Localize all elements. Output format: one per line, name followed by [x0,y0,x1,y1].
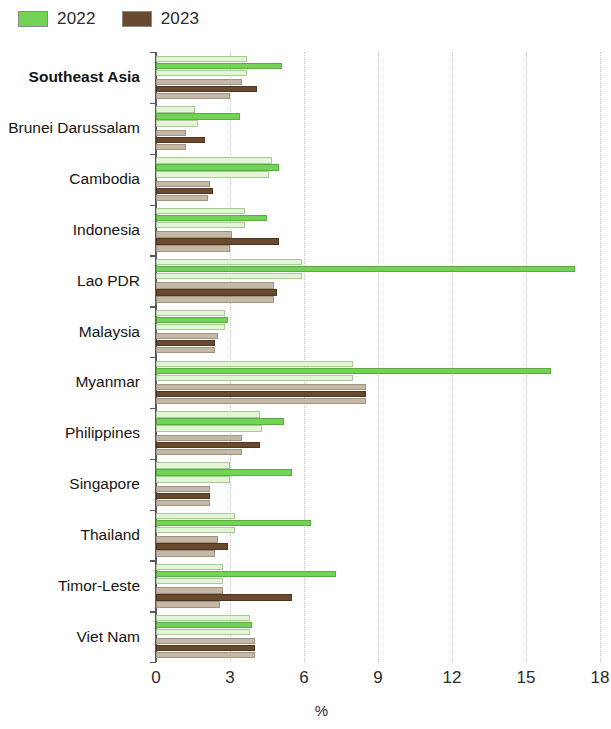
x-tick-label-3: 3 [225,668,234,688]
bar-2022-lower [156,171,269,177]
bar-2022-main [156,113,240,119]
bar-2022-main [156,317,228,323]
bar-group [156,459,600,510]
bar-2022-main [156,215,267,221]
bar-2022-lower [156,425,262,431]
bar-group [156,611,600,662]
bar-2023-main [156,493,210,499]
bar-2023-lower [156,347,215,353]
bar-2023-lower [156,398,366,404]
bar-2022-lower [156,120,198,126]
x-tick-label-15: 15 [517,668,536,688]
bar-2023-upper [156,181,210,187]
bar-2023-main [156,442,260,448]
category-label-lao-pdr: Lao PDR [77,272,140,290]
bar-2022-lower [156,527,235,533]
x-tick-label-12: 12 [443,668,462,688]
bar-2022-upper [156,106,195,112]
bar-2023-main [156,86,257,92]
bar-2023-upper [156,384,366,390]
category-label-viet-nam: Viet Nam [77,628,140,646]
chart-legend: 2022 2023 [18,6,199,32]
category-axis-labels: Southeast AsiaBrunei DarussalamCambodiaI… [0,52,148,662]
bar-2022-main [156,469,292,475]
bar-2022-lower [156,375,353,381]
x-tick-label-0: 0 [151,668,160,688]
bar-2022-main [156,368,551,374]
bar-2023-upper [156,486,210,492]
bar-group [156,154,600,205]
bar-2022-upper [156,208,245,214]
bar-2022-lower [156,273,302,279]
bar-chart: 2022 2023 Southeast AsiaBrunei Darussala… [0,0,611,729]
plot-area [156,52,600,662]
bar-2022-main [156,418,284,424]
bar-2023-upper [156,130,186,136]
bar-2022-main [156,622,252,628]
bar-group [156,357,600,408]
category-label-singapore: Singapore [69,475,140,493]
bar-2023-lower [156,550,215,556]
bar-2023-main [156,391,366,397]
gridline-18 [600,52,602,662]
bar-2023-upper [156,536,218,542]
bar-2023-lower [156,652,255,658]
category-label-thailand: Thailand [81,526,140,544]
bar-2023-main [156,594,292,600]
legend-label-2023: 2023 [161,9,200,29]
x-tick-label-9: 9 [373,668,382,688]
bar-group [156,255,600,306]
bar-2023-lower [156,144,186,150]
bar-2022-lower [156,629,250,635]
bar-2022-lower [156,324,225,330]
bar-2022-upper [156,361,353,367]
bar-2022-upper [156,56,247,62]
bar-2023-lower [156,601,220,607]
bar-2023-lower [156,195,208,201]
category-label-cambodia: Cambodia [69,170,140,188]
category-label-southeast-asia: Southeast Asia [29,68,140,86]
bar-group [156,52,600,103]
bar-2022-main [156,571,336,577]
bar-2022-upper [156,259,302,265]
bar-2023-main [156,543,228,549]
bar-2022-upper [156,615,250,621]
bar-2023-main [156,188,213,194]
bar-2022-lower [156,222,245,228]
bar-2022-main [156,520,311,526]
category-label-brunei-darussalam: Brunei Darussalam [8,119,140,137]
x-axis-title-text: % [315,702,328,719]
bar-group [156,560,600,611]
bar-group [156,306,600,357]
x-axis: 0369121518 [156,662,600,692]
legend-swatch-2022 [18,11,48,27]
category-label-malaysia: Malaysia [79,323,140,341]
bar-2023-lower [156,296,274,302]
bar-2022-upper [156,513,235,519]
bar-group [156,408,600,459]
bar-2022-upper [156,310,225,316]
bar-group [156,510,600,561]
bar-2022-upper [156,157,272,163]
bar-2023-upper [156,79,242,85]
bar-2023-lower [156,449,242,455]
bar-2023-main [156,340,215,346]
legend-item-2023: 2023 [122,9,200,29]
bar-2023-upper [156,435,242,441]
bar-2023-upper [156,333,218,339]
bar-2022-upper [156,462,230,468]
bar-2023-upper [156,638,255,644]
bar-2022-upper [156,564,223,570]
category-label-philippines: Philippines [65,424,140,442]
x-axis-title: % [0,702,611,719]
bar-2022-main [156,164,279,170]
category-label-timor-leste: Timor-Leste [58,577,140,595]
bar-2022-main [156,266,575,272]
bar-2023-main [156,289,277,295]
bar-2023-upper [156,282,274,288]
bar-2023-lower [156,93,230,99]
bar-2022-lower [156,70,247,76]
category-label-myanmar: Myanmar [75,373,140,391]
bar-2022-lower [156,578,223,584]
bar-group [156,103,600,154]
